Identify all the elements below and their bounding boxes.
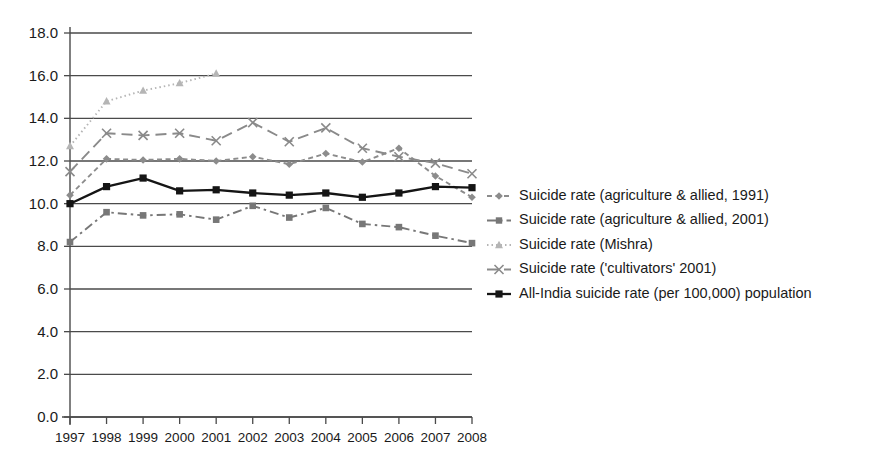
x-axis-tick-label: 2002 [238,430,268,445]
y-axis-labels-group: 18.016.014.012.010.08.06.04.02.00.0 [29,24,58,425]
legend-item-4[interactable]: All-India suicide rate (per 100,000) pop… [487,285,812,301]
series-line [70,206,472,243]
x-axis-tick-label: 2007 [420,430,450,445]
data-point-marker [212,69,220,76]
data-point-marker [322,150,330,158]
data-point-marker [285,137,294,146]
data-point-marker [495,192,503,200]
legend-item-label: Suicide rate ('cultivators' 2001) [519,260,716,276]
y-axis-tick-label: 2.0 [37,365,58,382]
data-point-marker [139,156,147,164]
data-point-marker [432,232,439,239]
y-axis-tick-label: 18.0 [29,24,58,41]
legend-item-label: Suicide rate (agriculture & allied, 1991… [519,187,769,203]
data-point-marker [66,200,73,207]
data-point-marker [495,290,502,297]
data-point-marker [213,216,220,223]
data-point-marker [103,209,110,216]
y-axis-tick-label: 12.0 [29,152,58,169]
gridlines-group [70,33,472,417]
y-axis-tick-label: 8.0 [37,237,58,254]
y-axis-tick-label: 0.0 [37,408,58,425]
data-point-marker [395,144,403,152]
data-point-marker [359,158,367,166]
data-point-marker [323,205,330,212]
data-point-marker [468,193,476,201]
series-line [70,123,472,174]
x-axis-tick-label: 2003 [274,430,304,445]
x-axis-labels-group: 1997199819992000200120022003200420052006… [55,430,487,445]
series-line [70,178,472,204]
series-1 [67,203,476,247]
data-point-marker [469,240,476,247]
data-point-marker [140,212,147,219]
data-point-marker [248,118,257,127]
data-point-marker [322,189,329,196]
data-point-marker [139,86,147,93]
data-point-marker [359,221,366,228]
data-series-group [66,69,477,246]
y-axis-tick-label: 14.0 [29,109,58,126]
y-axis-tick-label: 16.0 [29,67,58,84]
x-axis-tick-label: 2004 [311,430,342,445]
legend-item-label: Suicide rate (Mishra) [519,236,653,252]
data-point-marker [249,203,256,210]
data-point-marker [176,211,183,218]
legend-item-label: Suicide rate (agriculture & allied, 2001… [519,211,769,227]
x-axis-ticks-group [70,417,472,424]
series-0 [66,144,476,201]
legend-item-0[interactable]: Suicide rate (agriculture & allied, 1991… [487,187,769,203]
legend-item-2[interactable]: Suicide rate (Mishra) [487,236,653,252]
y-axis-ticks-group [64,33,70,417]
x-axis-tick-label: 2005 [347,430,377,445]
data-point-marker [286,192,293,199]
x-axis-tick-label: 1997 [55,430,85,445]
data-point-marker [249,189,256,196]
data-point-marker [212,157,220,165]
y-axis-tick-label: 10.0 [29,195,58,212]
x-axis-tick-label: 2001 [201,430,231,445]
data-point-marker [432,183,439,190]
series-3 [66,118,477,178]
data-point-marker [468,169,477,178]
data-point-marker [67,239,74,246]
data-point-marker [213,186,220,193]
data-point-marker [103,97,111,104]
data-point-marker [468,184,475,191]
legend-item-1[interactable]: Suicide rate (agriculture & allied, 2001… [487,211,769,227]
legend-item-3[interactable]: Suicide rate ('cultivators' 2001) [487,260,716,276]
data-point-marker [396,224,403,231]
data-point-marker [249,153,257,161]
chart-legend: Suicide rate (agriculture & allied, 1991… [487,187,812,301]
data-point-marker [359,194,366,201]
data-point-marker [66,142,74,149]
y-axis-tick-label: 4.0 [37,323,58,340]
y-axis-tick-label: 6.0 [37,280,58,297]
data-point-marker [103,183,110,190]
data-point-marker [286,214,293,221]
suicide-rate-line-chart: 18.016.014.012.010.08.06.04.02.00.0 1997… [0,0,874,469]
x-axis-tick-label: 1998 [92,430,122,445]
x-axis-tick-label: 2000 [165,430,195,445]
data-point-marker [395,189,402,196]
legend-item-label: All-India suicide rate (per 100,000) pop… [519,285,812,301]
x-axis-tick-label: 2008 [457,430,487,445]
series-4 [66,174,475,207]
data-point-marker [321,123,330,132]
data-point-marker [139,174,146,181]
x-axis-tick-label: 2006 [384,430,414,445]
data-point-marker [176,187,183,194]
data-point-marker [496,217,502,223]
x-axis-tick-label: 1999 [128,430,158,445]
chart-canvas: 18.016.014.012.010.08.06.04.02.00.0 1997… [0,0,874,469]
